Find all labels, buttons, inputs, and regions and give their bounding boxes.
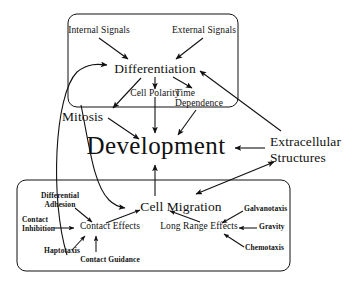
node-extracellular-structures: Extracellular Structures xyxy=(270,134,341,166)
diagram-canvas: Internal Signals External Signals Differ… xyxy=(0,0,351,286)
node-contact-inhibition: Contact Inhibition xyxy=(22,216,55,234)
node-differentiation: Differentiation xyxy=(114,62,195,76)
node-internal-signals: Internal Signals xyxy=(68,26,130,36)
node-time-dependence: Time Dependence xyxy=(175,89,223,109)
node-extracellular-structures-line1: Extracellular xyxy=(270,134,341,150)
edge-differential-adhesion-to-contact-effects xyxy=(75,208,92,222)
node-long-range-effects: Long Range Effects xyxy=(160,222,238,232)
node-development: Development xyxy=(86,133,225,159)
node-cell-polarity: Cell Polarity xyxy=(130,89,180,99)
edge-external-signals-to-differentiation xyxy=(176,38,203,59)
edge-internal-signals-to-differentiation xyxy=(99,38,128,59)
node-external-signals: External Signals xyxy=(172,26,236,36)
node-differential-adhesion: Differential Adhesion xyxy=(41,192,79,210)
node-contact-inhibition-line2: Inhibition xyxy=(22,225,55,234)
node-contact-effects: Contact Effects xyxy=(80,222,140,232)
edge-extracellular-to-cell-migration-box xyxy=(196,162,274,194)
node-differential-adhesion-line2: Adhesion xyxy=(41,201,79,210)
node-galvanotaxis: Galvanotaxis xyxy=(244,205,287,213)
node-haptotaxis: Haptotaxis xyxy=(44,247,80,255)
node-time-dependence-line2: Dependence xyxy=(175,99,223,109)
node-cell-migration: Cell Migration xyxy=(140,200,221,214)
edge-chemotaxis-to-long-range-effects xyxy=(224,234,244,247)
node-extracellular-structures-line2: Structures xyxy=(270,150,341,166)
node-contact-guidance: Contact Guidance xyxy=(80,256,140,264)
node-gravity: Gravity xyxy=(259,223,285,231)
edge-differentiation-to-time-dependence xyxy=(173,77,192,88)
node-chemotaxis: Chemotaxis xyxy=(245,244,284,252)
node-mitosis: Mitosis xyxy=(62,110,103,124)
